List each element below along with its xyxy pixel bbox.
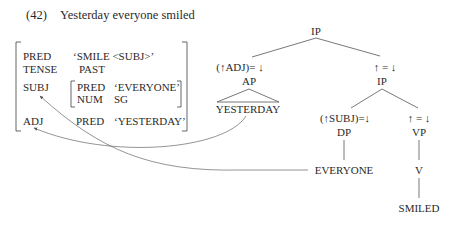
node-ap: AP <box>242 75 256 87</box>
fs-attr-adj: ADJ <box>23 115 44 127</box>
fs-subj-attr-num: NUM <box>77 93 103 105</box>
fs-value-pred: ‘SMILE <SUBJ>’ <box>73 50 154 62</box>
node-vp: VP <box>412 126 426 138</box>
fs-subj-value-pred: ‘EVERYONE’ <box>114 81 180 93</box>
annotation-subj: (↑SUBJ)=↓ <box>320 112 370 125</box>
lfg-diagram: (42) Yesterday everyone smiled PRED ‘SMI… <box>0 0 452 225</box>
fs-attr-subj: SUBJ <box>23 81 49 93</box>
node-ip: IP <box>377 75 387 87</box>
annotation-ip: ↑ = ↓ <box>374 61 397 73</box>
fs-attr-pred: PRED <box>23 50 51 62</box>
node-smiled: SMILED <box>399 202 440 214</box>
annotation-adj: (↑ADJ)= ↓ <box>216 61 263 74</box>
edge-ip-ap <box>252 38 316 57</box>
fs-attr-tense: TENSE <box>23 63 58 75</box>
fs-subj-attr-pred: PRED <box>77 81 105 93</box>
fstructure-outer-left-bracket <box>16 42 21 131</box>
triangle-ap <box>217 89 279 102</box>
example-number: (42) <box>26 8 47 22</box>
c-structure-tree: IP (↑ADJ)= ↓ AP YESTERDAY ↑ = ↓ IP (↑SUB… <box>216 25 440 214</box>
node-dp: DP <box>337 126 351 138</box>
fs-subj-left-bracket <box>71 81 75 107</box>
edge-ip-vp <box>382 89 418 108</box>
edge-ip-dp <box>351 89 382 108</box>
fs-adj-value-pred: ‘YESTERDAY’ <box>114 115 186 127</box>
fs-subj-value-num: SG <box>114 93 128 105</box>
node-yesterday: YESTERDAY <box>216 103 280 115</box>
annotation-vp: ↑ = ↓ <box>408 112 431 124</box>
fs-value-tense: PAST <box>79 63 105 75</box>
node-ip-root: IP <box>311 25 321 37</box>
node-v: V <box>415 164 423 176</box>
example-sentence: Yesterday everyone smiled <box>60 8 196 22</box>
node-everyone: EVERYONE <box>315 164 374 176</box>
edge-ip-ip <box>316 38 380 56</box>
fs-adj-attr-pred: PRED <box>76 115 104 127</box>
